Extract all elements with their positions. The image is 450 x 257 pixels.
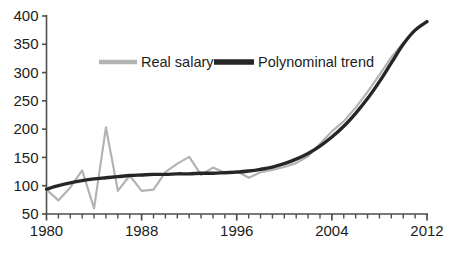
y-axis-tick-label: 150 bbox=[13, 149, 38, 166]
legend-item: Real salary bbox=[99, 54, 214, 70]
y-axis-tick-label: 200 bbox=[13, 120, 38, 137]
legend-label-real-salary: Real salary bbox=[141, 54, 214, 70]
legend-item: Polynominal trend bbox=[214, 54, 374, 70]
x-axis-tick-label: 2004 bbox=[315, 222, 348, 239]
x-axis-tick-label: 1996 bbox=[220, 222, 253, 239]
y-axis-tick-label: 250 bbox=[13, 92, 38, 109]
chart-legend: Real salaryPolynominal trend bbox=[99, 54, 374, 70]
x-axis-tick-label: 1988 bbox=[125, 222, 158, 239]
y-axis-tick-label: 100 bbox=[13, 177, 38, 194]
y-axis-tick-label: 300 bbox=[13, 64, 38, 81]
data-series-group bbox=[47, 22, 428, 209]
y-axis: 50100150200250300350400 bbox=[13, 7, 46, 222]
chart-canvas: 50100150200250300350400 1980198819962004… bbox=[0, 0, 450, 257]
x-axis-tick-label: 2012 bbox=[410, 222, 443, 239]
y-axis-tick-label: 400 bbox=[13, 7, 38, 24]
x-axis-tick-label: 1980 bbox=[30, 222, 63, 239]
y-axis-tick-label: 50 bbox=[22, 205, 39, 222]
x-axis: 19801988199620042012 bbox=[30, 214, 444, 239]
data-line-real-salary bbox=[47, 22, 428, 209]
trend-line-polynominal bbox=[47, 22, 428, 189]
y-axis-tick-label: 350 bbox=[13, 35, 38, 52]
chart-figure: 50100150200250300350400 1980198819962004… bbox=[0, 0, 450, 257]
legend-label-trend: Polynominal trend bbox=[258, 54, 374, 70]
